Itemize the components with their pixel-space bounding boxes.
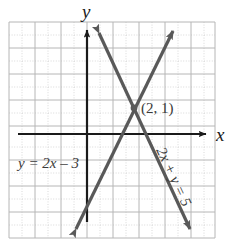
y-axis-label: y bbox=[80, 1, 91, 22]
graph-canvas: y x (2, 1) y = 2x – 3 2x + y = 5 bbox=[0, 0, 229, 243]
coordinate-graph-figure: y x (2, 1) y = 2x – 3 2x + y = 5 bbox=[0, 0, 229, 243]
intersection-point-label: (2, 1) bbox=[141, 100, 174, 117]
intersection-point-marker bbox=[131, 105, 138, 112]
line1-equation-label: y = 2x – 3 bbox=[16, 155, 79, 171]
x-axis-label: x bbox=[215, 124, 225, 145]
